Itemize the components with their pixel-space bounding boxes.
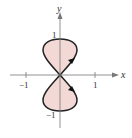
tick-label-x-neg: −1 [19,80,29,90]
tick-label-y-neg: −1 [46,110,56,120]
x-axis-arrow-icon [112,73,119,78]
y-axis-label: y [56,3,62,14]
plot: y x −1 1 1 −1 [0,0,132,138]
tick-label-x-pos: 1 [93,80,98,90]
tick-label-y-pos: 1 [52,30,57,40]
x-axis-label: x [120,69,126,80]
